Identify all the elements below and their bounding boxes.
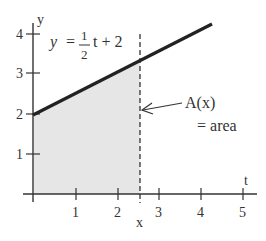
svg-text:t + 2: t + 2 (93, 33, 122, 50)
y-tick-label: 2 (16, 107, 23, 122)
y-tick-label: 4 (16, 27, 23, 42)
shaded-area (34, 61, 140, 194)
x-marker-label: x (136, 215, 143, 230)
svg-text:y: y (48, 33, 58, 51)
area-arrow (142, 103, 182, 114)
y-tick-label: 1 (16, 147, 23, 162)
annotation-ax: A(x) (185, 94, 215, 112)
x-tick-label: 1 (72, 205, 79, 220)
svg-text:1: 1 (81, 28, 88, 43)
x-axis-label: t (244, 173, 248, 188)
x-tick-label: 2 (114, 205, 121, 220)
x-tick-label: 4 (197, 205, 204, 220)
area-diagram: 1 2 3 4 1 2 3 4 5 y t x y = 1 2 t + 2 A(… (0, 0, 266, 241)
svg-text:=: = (66, 33, 75, 50)
x-tick-label: 3 (155, 205, 162, 220)
y-tick-label: 3 (16, 66, 23, 81)
x-tick-label: 5 (239, 205, 246, 220)
y-axis-label: y (37, 12, 44, 27)
annotation-area: = area (197, 117, 237, 134)
equation-label: y = 1 2 t + 2 (48, 28, 122, 62)
svg-text:2: 2 (81, 47, 88, 62)
